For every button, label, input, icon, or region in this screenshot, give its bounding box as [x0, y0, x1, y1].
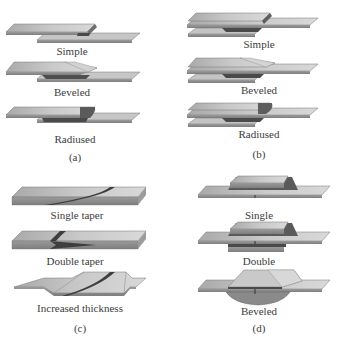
joint-a-simple	[6, 24, 140, 43]
panel-label-d: (d)	[253, 322, 266, 334]
panel-label-a: (a)	[69, 151, 81, 163]
joint-b-simple	[187, 13, 318, 37]
label-c-increased-thickness: Increased thickness	[37, 302, 123, 314]
joint-c-single-taper	[12, 187, 146, 205]
label-b-radiused: Radiused	[239, 128, 280, 140]
joint-d-beveled	[198, 270, 330, 305]
label-a-radiused: Radiused	[55, 133, 96, 145]
joint-d-double	[198, 222, 330, 252]
joint-a-radiused	[6, 107, 140, 123]
joint-a-beveled	[6, 62, 140, 82]
label-d-single: Single	[245, 209, 273, 221]
label-b-simple: Simple	[243, 38, 274, 50]
label-d-double: Double	[243, 255, 275, 267]
joint-b-beveled	[187, 58, 318, 83]
joint-c-double-taper	[12, 231, 146, 249]
label-b-beveled: Beveled	[241, 84, 277, 96]
label-c-single-taper: Single taper	[51, 209, 104, 221]
joint-d-single	[198, 176, 330, 198]
label-c-double-taper: Double taper	[46, 255, 103, 267]
joint-b-radiused	[187, 103, 318, 127]
label-a-beveled: Beveled	[54, 86, 90, 98]
joint-c-increased-thickness	[14, 272, 146, 296]
label-a-simple: Simple	[56, 45, 87, 57]
panel-label-c: (c)	[74, 322, 86, 334]
joint-illustrations	[0, 0, 346, 346]
panel-label-b: (b)	[253, 148, 266, 160]
label-d-beveled: Beveled	[241, 305, 277, 317]
